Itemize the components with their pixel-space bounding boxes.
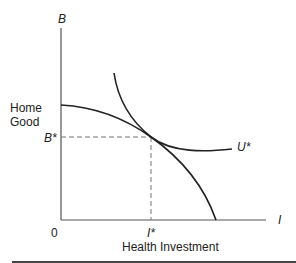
indifference-curve-label: U*: [237, 140, 251, 154]
b-star-tick-label: B*: [44, 131, 57, 145]
i-star-tick-label: I*: [147, 226, 155, 240]
y-axis-symbol: B: [58, 12, 66, 26]
indifference-curve: [114, 73, 232, 151]
origin-label: 0: [51, 226, 58, 240]
production-possibility-frontier: [61, 105, 216, 220]
x-axis-label: Health Investment: [122, 240, 219, 254]
tangency-diagram: B Home Good B* 0 I* I Health Investment …: [0, 0, 296, 263]
y-axis-label-line2: Good: [10, 115, 39, 129]
x-axis-symbol: I: [278, 213, 282, 227]
y-axis-label-line1: Home: [10, 101, 42, 115]
